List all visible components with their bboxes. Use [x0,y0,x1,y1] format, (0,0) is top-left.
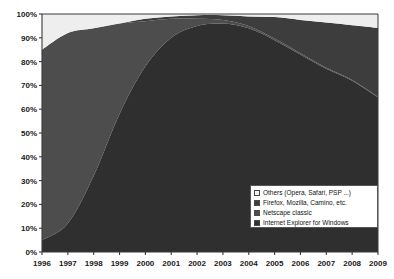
legend-item-firefox[interactable]: Firefox, Mozilla, Camino, etc. [254,198,375,208]
browser-usage-area-chart: 0%10%20%30%40%50%60%70%80%90%100%1996199… [0,0,394,279]
y-tick-label: 70% [21,81,37,90]
y-tick-label: 90% [21,34,37,43]
x-tick-label: 1999 [111,259,129,268]
x-tick-label: 2000 [136,259,154,268]
x-tick-label: 2009 [369,259,387,268]
y-tick-label: 20% [21,200,37,209]
x-tick-label: 1996 [33,259,51,268]
y-tick-label: 60% [21,105,37,114]
legend-label-internet-explorer: Internet Explorer for Windows [263,218,349,228]
legend-swatch-firefox [254,200,260,206]
chart-canvas: 0%10%20%30%40%50%60%70%80%90%100%1996199… [0,0,394,279]
y-tick-label: 10% [21,224,37,233]
legend-label-firefox: Firefox, Mozilla, Camino, etc. [263,198,347,208]
legend-item-others[interactable]: Others (Opera, Safari, PSP ...) [254,188,375,198]
x-tick-label: 2007 [317,259,335,268]
legend-label-others: Others (Opera, Safari, PSP ...) [263,188,351,198]
y-tick-label: 30% [21,177,37,186]
x-axis-ticks: 1996199719981999200020012002200320042005… [33,252,387,268]
x-tick-label: 1998 [85,259,103,268]
x-tick-label: 2002 [188,259,206,268]
legend-item-internet-explorer[interactable]: Internet Explorer for Windows [254,218,375,228]
chart-legend: Others (Opera, Safari, PSP ...) Firefox,… [250,185,378,228]
y-tick-label: 0% [25,248,37,257]
x-tick-label: 1997 [59,259,77,268]
x-tick-label: 2005 [266,259,284,268]
x-tick-label: 2004 [240,259,258,268]
y-tick-label: 100% [17,10,37,19]
y-tick-label: 40% [21,153,37,162]
y-tick-label: 80% [21,58,37,67]
legend-item-netscape[interactable]: Netscape classic [254,208,375,218]
x-tick-label: 2001 [162,259,180,268]
y-tick-label: 50% [21,129,37,138]
x-tick-label: 2003 [214,259,232,268]
legend-swatch-netscape [254,210,260,216]
legend-label-netscape: Netscape classic [263,208,312,218]
y-axis-ticks: 0%10%20%30%40%50%60%70%80%90%100% [17,10,42,257]
x-tick-label: 2008 [343,259,361,268]
x-tick-label: 2006 [292,259,310,268]
legend-swatch-others [254,190,260,196]
legend-swatch-internet-explorer [254,220,260,226]
